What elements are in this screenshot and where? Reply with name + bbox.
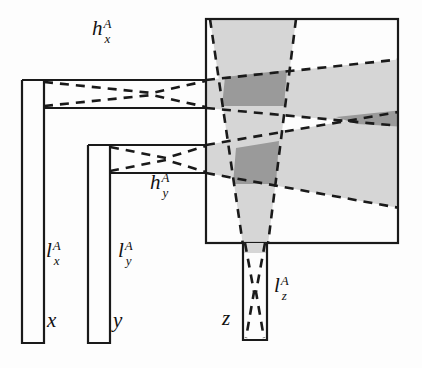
ray-z-left	[245, 243, 254, 338]
label-l-y: lAy	[118, 240, 138, 264]
ray-y-upper	[110, 146, 206, 158]
label-l-x-sup: A	[53, 238, 61, 253]
leg-y-outline	[88, 145, 110, 343]
label-l-x: lAx	[46, 240, 66, 264]
ray-x-lower	[44, 95, 206, 107]
channel-x-group	[22, 80, 206, 343]
ray-x-upper	[44, 81, 206, 93]
leg-x-outline	[22, 80, 44, 343]
channel-y-group	[88, 145, 206, 343]
label-h-y-base: h	[150, 170, 161, 194]
label-l-z-sup: A	[281, 273, 289, 288]
channel-z-rays	[245, 243, 265, 338]
label-h-y-sup: A	[162, 170, 170, 185]
overlap-y-z-fill	[233, 141, 279, 184]
label-h-y-sub: y	[162, 185, 168, 200]
label-l-y-sub: y	[126, 253, 132, 268]
label-h-x-sub: x	[104, 31, 110, 46]
axis-mark-y: y	[113, 308, 122, 333]
label-h-y: hAy	[150, 172, 174, 196]
axis-mark-z: z	[222, 306, 230, 331]
channel-y-rays	[110, 146, 206, 172]
label-l-z-sub: z	[282, 288, 287, 303]
label-l-z-base: l	[274, 273, 280, 297]
diagram-svg	[0, 0, 422, 368]
channel-z-group	[243, 243, 267, 340]
label-h-x-base: h	[92, 16, 103, 40]
label-l-y-sup: A	[125, 238, 133, 253]
figure-canvas: hAx hAy lAx lAy lAz x y z	[0, 0, 422, 368]
label-l-y-base: l	[118, 238, 124, 262]
axis-mark-x: x	[47, 308, 56, 333]
label-l-x-sub: x	[54, 253, 60, 268]
channel-y-outline	[88, 145, 206, 173]
label-l-x-base: l	[46, 238, 52, 262]
channel-x-outline	[22, 80, 206, 108]
label-h-x: hAx	[92, 18, 116, 42]
channel-x-rays	[44, 81, 206, 107]
label-l-z: lAz	[274, 275, 293, 299]
ray-z-right	[256, 243, 265, 338]
label-h-x-sup: A	[104, 16, 112, 31]
